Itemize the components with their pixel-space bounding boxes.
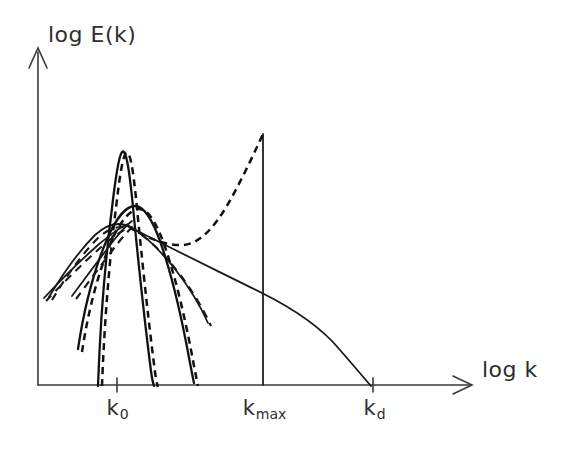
tick-label-k0-sub: 0 xyxy=(120,406,129,422)
y-axis-label: log E(k) xyxy=(48,22,136,47)
tick-label-k0: k0 xyxy=(106,396,127,420)
figure-root: log E(k) log k k0 kmax kd xyxy=(0,0,568,454)
curve-rising-branch-solid-inner xyxy=(72,221,132,296)
tick-label-kd: kd xyxy=(363,396,384,420)
spectrum-plot xyxy=(0,0,568,454)
curve-broad-peak-solid xyxy=(49,224,208,323)
tick-label-kd-main: k xyxy=(363,396,375,420)
tick-label-kmax: kmax xyxy=(243,396,286,420)
curve-broad-peak-dashed xyxy=(52,227,211,326)
curve-bottleneck-dashed xyxy=(128,134,263,245)
tick-label-kd-sub: d xyxy=(377,406,386,422)
curve-rising-branch-dashed-outer xyxy=(46,227,130,301)
x-axis-label: log k xyxy=(482,357,538,382)
tick-label-kmax-sub: max xyxy=(256,406,287,422)
curve-inertial-dissipation-solid xyxy=(128,226,371,386)
curve-narrow-peak-solid xyxy=(98,152,154,386)
tick-label-kmax-main: k xyxy=(243,396,255,420)
tick-label-k0-main: k xyxy=(106,396,118,420)
